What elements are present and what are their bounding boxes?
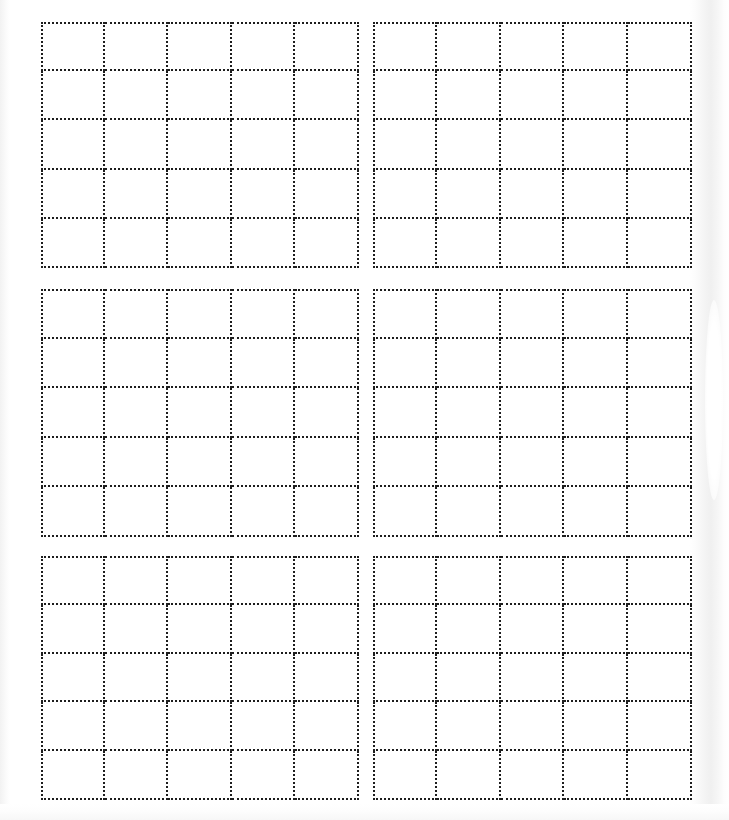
grid-cell[interactable] [373, 438, 437, 488]
grid-cell[interactable] [41, 702, 105, 751]
grid-cell[interactable] [501, 702, 565, 751]
grid-cell[interactable] [501, 388, 565, 438]
grid-cell[interactable] [628, 71, 692, 120]
grid-cell[interactable] [628, 22, 692, 71]
grid-cell[interactable] [295, 219, 359, 268]
grid-cell[interactable] [168, 170, 232, 219]
grid-cell[interactable] [168, 654, 232, 703]
grid-cell[interactable] [232, 654, 296, 703]
grid-cell[interactable] [628, 556, 692, 605]
grid-cell[interactable] [628, 605, 692, 654]
grid-cell[interactable] [373, 702, 437, 751]
grid-cell[interactable] [501, 219, 565, 268]
grid-cell[interactable] [373, 487, 437, 537]
grid-cell[interactable] [437, 487, 501, 537]
grid-cell[interactable] [295, 556, 359, 605]
grid-cell[interactable] [232, 170, 296, 219]
grid-cell[interactable] [437, 219, 501, 268]
grid-cell[interactable] [105, 438, 169, 488]
grid-cell[interactable] [105, 556, 169, 605]
grid-cell[interactable] [373, 556, 437, 605]
grid-cell[interactable] [41, 438, 105, 488]
grid-cell[interactable] [295, 170, 359, 219]
grid-cell[interactable] [564, 438, 628, 488]
grid-cell[interactable] [232, 438, 296, 488]
grid-cell[interactable] [41, 339, 105, 389]
grid-cell[interactable] [105, 487, 169, 537]
grid-cell[interactable] [41, 22, 105, 71]
grid-cell[interactable] [295, 605, 359, 654]
grid-cell[interactable] [232, 339, 296, 389]
grid-cell[interactable] [168, 702, 232, 751]
grid-cell[interactable] [628, 120, 692, 169]
grid-cell[interactable] [41, 605, 105, 654]
grid-cell[interactable] [501, 487, 565, 537]
grid-cell[interactable] [168, 751, 232, 800]
grid-cell[interactable] [41, 556, 105, 605]
grid-cell[interactable] [628, 654, 692, 703]
grid-cell[interactable] [501, 71, 565, 120]
grid-cell[interactable] [232, 120, 296, 169]
grid-cell[interactable] [501, 654, 565, 703]
grid-cell[interactable] [41, 751, 105, 800]
grid-cell[interactable] [295, 388, 359, 438]
grid-cell[interactable] [501, 289, 565, 339]
grid-cell[interactable] [373, 654, 437, 703]
grid-cell[interactable] [564, 289, 628, 339]
grid-cell[interactable] [373, 289, 437, 339]
grid-cell[interactable] [168, 388, 232, 438]
grid-cell[interactable] [295, 120, 359, 169]
grid-cell[interactable] [105, 219, 169, 268]
grid-cell[interactable] [295, 702, 359, 751]
grid-cell[interactable] [105, 388, 169, 438]
grid-cell[interactable] [168, 605, 232, 654]
grid-cell[interactable] [501, 605, 565, 654]
grid-cell[interactable] [232, 702, 296, 751]
grid-cell[interactable] [232, 219, 296, 268]
grid-cell[interactable] [501, 22, 565, 71]
grid-cell[interactable] [232, 487, 296, 537]
grid-cell[interactable] [373, 388, 437, 438]
grid-cell[interactable] [628, 487, 692, 537]
grid-cell[interactable] [628, 702, 692, 751]
grid-cell[interactable] [437, 556, 501, 605]
grid-cell[interactable] [564, 219, 628, 268]
grid-cell[interactable] [564, 120, 628, 169]
grid-cell[interactable] [41, 170, 105, 219]
grid-cell[interactable] [564, 605, 628, 654]
grid-cell[interactable] [41, 71, 105, 120]
grid-cell[interactable] [168, 289, 232, 339]
grid-cell[interactable] [105, 605, 169, 654]
grid-cell[interactable] [628, 219, 692, 268]
grid-cell[interactable] [41, 289, 105, 339]
grid-cell[interactable] [564, 22, 628, 71]
grid-cell[interactable] [232, 751, 296, 800]
grid-cell[interactable] [628, 388, 692, 438]
grid-cell[interactable] [437, 170, 501, 219]
grid-cell[interactable] [105, 71, 169, 120]
grid-cell[interactable] [501, 339, 565, 389]
grid-cell[interactable] [168, 219, 232, 268]
grid-cell[interactable] [232, 605, 296, 654]
grid-cell[interactable] [437, 22, 501, 71]
grid-cell[interactable] [105, 751, 169, 800]
grid-cell[interactable] [105, 22, 169, 71]
grid-cell[interactable] [105, 170, 169, 219]
grid-cell[interactable] [41, 120, 105, 169]
grid-cell[interactable] [232, 388, 296, 438]
grid-cell[interactable] [232, 22, 296, 71]
grid-cell[interactable] [168, 22, 232, 71]
grid-cell[interactable] [564, 71, 628, 120]
grid-cell[interactable] [373, 22, 437, 71]
grid-cell[interactable] [41, 654, 105, 703]
grid-cell[interactable] [501, 556, 565, 605]
grid-cell[interactable] [168, 556, 232, 605]
grid-cell[interactable] [295, 654, 359, 703]
grid-cell[interactable] [168, 438, 232, 488]
grid-cell[interactable] [564, 170, 628, 219]
grid-cell[interactable] [437, 702, 501, 751]
grid-cell[interactable] [295, 438, 359, 488]
grid-cell[interactable] [501, 120, 565, 169]
grid-cell[interactable] [295, 487, 359, 537]
grid-cell[interactable] [501, 170, 565, 219]
